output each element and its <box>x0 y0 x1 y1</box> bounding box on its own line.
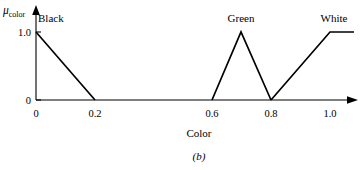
series-line-green <box>212 32 271 100</box>
x-tick-label-0-6: 0.6 <box>205 108 218 119</box>
x-axis-title: Color <box>186 127 211 139</box>
figure-caption: (b) <box>193 150 206 163</box>
membership-function-figure: 1.0 0 μcolor 0 0.2 0.6 0.8 1.0 Black Gre… <box>0 0 364 170</box>
y-axis-title-subscript: color <box>9 10 26 19</box>
series-line-white <box>271 32 354 100</box>
axes-group <box>32 5 358 104</box>
chart-svg: 1.0 0 μcolor 0 0.2 0.6 0.8 1.0 Black Gre… <box>0 0 364 170</box>
y-axis-title: μcolor <box>2 4 26 19</box>
x-tick-label-0-2: 0.2 <box>88 108 101 119</box>
x-tick-label-0-8: 0.8 <box>264 108 277 119</box>
series-line-black <box>36 32 95 100</box>
y-tickmarks-group <box>36 32 41 100</box>
y-tick-label-0: 0 <box>26 95 31 106</box>
x-tick-label-1-0: 1.0 <box>323 108 336 119</box>
series-label-green: Green <box>228 12 255 24</box>
x-axis-arrowhead <box>347 96 358 104</box>
y-tick-label-1: 1.0 <box>18 27 31 38</box>
series-label-black: Black <box>38 12 64 24</box>
x-tick-label-0: 0 <box>33 108 38 119</box>
series-label-white: White <box>321 12 348 24</box>
